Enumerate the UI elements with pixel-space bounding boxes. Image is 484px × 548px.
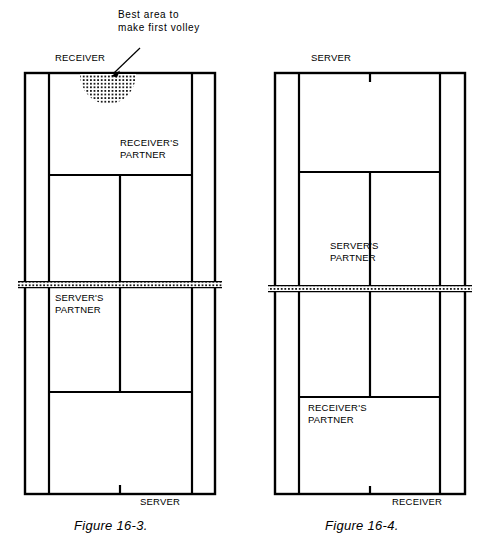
net-band: [268, 286, 472, 292]
caption-figure-16-4: Figure 16-4.: [325, 518, 399, 533]
diagram-canvas: Best area to make first volley RECEIVER …: [0, 0, 484, 548]
tennis-court-16-4: [0, 0, 484, 548]
court-outer-boundary: [275, 73, 465, 494]
label-receiver-16-4: RECEIVER: [392, 496, 442, 508]
label-receivers-partner-16-4: RECEIVER'S PARTNER: [308, 402, 367, 425]
label-server-16-4: SERVER: [311, 52, 351, 64]
label-servers-partner-16-4: SERVER'S PARTNER: [330, 240, 379, 263]
figure-16-4: SERVER SERVER'S PARTNER RECEIVER'S PARTN…: [0, 0, 484, 548]
